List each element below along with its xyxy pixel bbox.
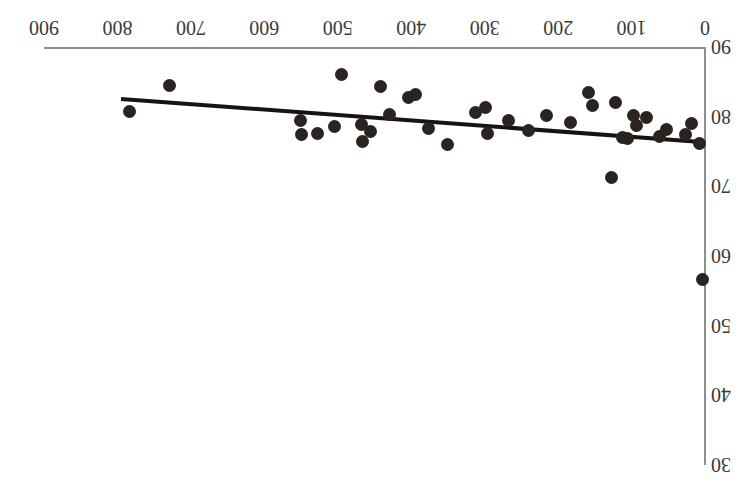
data-point [693, 137, 706, 150]
data-point [540, 109, 553, 122]
data-point [640, 111, 653, 124]
rotated-figure-wrapper: 0100200300400500600700800900 30405060708… [0, 0, 749, 500]
data-point [335, 68, 348, 81]
data-point [564, 116, 577, 129]
data-point [409, 88, 422, 101]
data-point [621, 132, 634, 145]
data-point [522, 124, 535, 137]
data-point [479, 101, 492, 114]
scatter-plot-canvas: 0100200300400500600700800900 30405060708… [0, 0, 749, 500]
data-point [481, 127, 494, 140]
data-point [123, 105, 136, 118]
data-point [605, 171, 618, 184]
data-point [679, 128, 692, 141]
data-point [502, 114, 515, 127]
data-point [441, 138, 454, 151]
data-point [609, 96, 622, 109]
data-point [696, 273, 709, 286]
data-point [586, 99, 599, 112]
data-point [374, 80, 387, 93]
data-point [660, 123, 673, 136]
data-point [422, 122, 435, 135]
data-point [685, 117, 698, 130]
data-point [328, 120, 341, 133]
data-point [364, 126, 377, 139]
data-point [294, 114, 307, 127]
data-point [295, 128, 308, 141]
data-point [383, 108, 396, 121]
data-point [311, 127, 324, 140]
data-point [163, 79, 176, 92]
data-points-layer [0, 0, 749, 500]
data-point [582, 86, 595, 99]
